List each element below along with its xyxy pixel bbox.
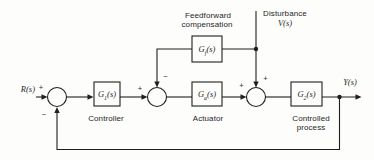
sum-junction-2 (148, 88, 167, 107)
branch-dot-output (337, 95, 341, 99)
feedforward-caption-line2: compensation (181, 20, 232, 29)
actuator-tf-label: Ga(s) (198, 89, 216, 101)
block-diagram-figure: G1(s) Ga(s) G2(s) Gf(s) Controller Actua… (0, 0, 374, 160)
arrowhead-disturbance-into-sum3 (253, 82, 258, 88)
process-tf-label: G2(s) (297, 89, 315, 101)
feedforward-tf-label: Gf(s) (199, 44, 216, 56)
feedforward-caption-line1: Feedforward (185, 11, 231, 20)
process-caption-line1: Controlled (292, 114, 329, 123)
sum1-plus-sign: + (39, 83, 44, 92)
sum-junction-3 (247, 88, 266, 107)
sum2-minus-sign: − (163, 72, 168, 81)
arrowhead-input (42, 94, 48, 99)
controller-caption: Controller (88, 114, 124, 123)
arrowhead-feedforward-into-sum2 (154, 82, 159, 88)
output-signal-label: Y(s) (343, 77, 357, 87)
arrowhead-output (356, 94, 362, 99)
arrowhead-into-sum2 (142, 94, 148, 99)
controller-tf-label: G1(s) (98, 89, 116, 101)
sum-junction-1 (48, 88, 67, 107)
input-signal-label: R(s) (20, 84, 35, 94)
arrowhead-into-sum3 (241, 94, 247, 99)
sum3-plus-top-sign: + (263, 74, 268, 83)
process-caption-line2: process (297, 123, 326, 132)
sum1-minus-sign: − (42, 110, 47, 119)
arrowhead-into-controller (88, 94, 94, 99)
actuator-caption: Actuator (193, 114, 224, 123)
sum3-plus-left-sign: + (239, 81, 244, 90)
disturbance-signal-label: V(s) (278, 18, 292, 28)
arrowhead-feedback-into-sum1 (54, 107, 59, 113)
feedforward-control-diagram: G1(s) Ga(s) G2(s) Gf(s) Controller Actua… (0, 0, 374, 160)
sum2-plus-sign: + (138, 84, 143, 93)
wire-feedforward-to-sum2 (157, 49, 192, 83)
branch-dot-disturbance (254, 47, 258, 51)
